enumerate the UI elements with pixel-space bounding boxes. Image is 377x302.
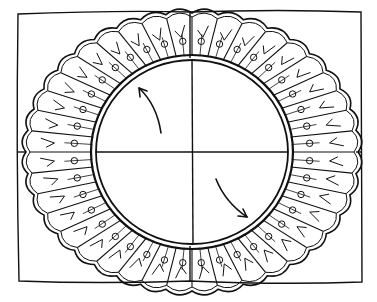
ring-diagram — [0, 0, 377, 302]
vertical-divider — [192, 60, 193, 244]
inner-circle — [96, 60, 288, 244]
